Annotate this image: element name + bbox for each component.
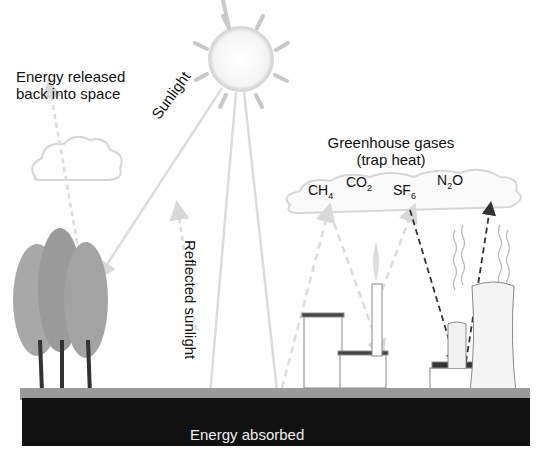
label-energy-absorbed: Energy absorbed: [190, 426, 304, 443]
factory: [302, 242, 516, 392]
label-line: (trap heat): [326, 151, 456, 168]
gas-ch4: CH4: [308, 182, 333, 201]
gas-sf6: SF6: [393, 182, 416, 201]
label-line: Energy released: [16, 68, 125, 85]
label-line: Greenhouse gases: [326, 134, 456, 151]
cloud-left: [32, 137, 121, 180]
label-greenhouse-gases: Greenhouse gases (trap heat): [326, 134, 456, 168]
label-energy-released: Energy released back into space: [16, 68, 125, 102]
sun-icon: [195, 0, 288, 107]
label-reflected-sunlight: Reflected sunlight: [182, 240, 199, 359]
label-line: back into space: [16, 85, 125, 102]
trees: [13, 228, 108, 395]
gas-n2o: N2O: [437, 172, 463, 191]
gas-co2: CO2: [346, 174, 372, 193]
